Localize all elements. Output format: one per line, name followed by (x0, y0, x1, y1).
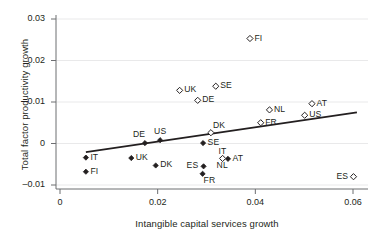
point-label-fr: FR (204, 175, 216, 185)
point-label-uk: UK (136, 152, 148, 162)
point-label-fi: FI (90, 166, 98, 176)
point-label-es: ES (187, 160, 199, 170)
point-label-us: US (309, 109, 321, 119)
y-tick-label: 0.03 (5, 13, 45, 23)
x-tick-label: 0.04 (235, 197, 275, 207)
point-label-de: DE (133, 129, 145, 139)
point-label-at: AT (232, 153, 243, 163)
x-tick-label: 0.06 (333, 197, 373, 207)
point-label-nl: NL (274, 104, 285, 114)
point-label-it: IT (90, 152, 98, 162)
y-tick-label: 0.01 (5, 96, 45, 106)
point-label-se: SE (208, 137, 220, 147)
point-label-at: AT (316, 98, 327, 108)
point-label-de: DE (202, 94, 214, 104)
point-label-nl: NL (217, 160, 228, 170)
y-tick-label: 0.02 (5, 55, 45, 65)
point-label-dk: DK (213, 120, 225, 130)
x-tick-label: 0 (40, 197, 80, 207)
point-label-us: US (154, 126, 166, 136)
point-label-uk: UK (184, 84, 196, 94)
y-tick-label: 0 (5, 138, 45, 148)
point-label-dk: DK (160, 159, 172, 169)
x-tick-label: 0.02 (138, 197, 178, 207)
point-label-fi: FI (254, 33, 262, 43)
point-label-it: IT (219, 146, 227, 156)
y-tick-label: –0.01 (5, 179, 45, 189)
scatter-chart-figure: Total factor productivity growth Intangi… (0, 0, 374, 238)
point-label-se: SE (220, 80, 232, 90)
point-label-es: ES (336, 171, 348, 181)
point-label-fr: FR (265, 117, 277, 127)
